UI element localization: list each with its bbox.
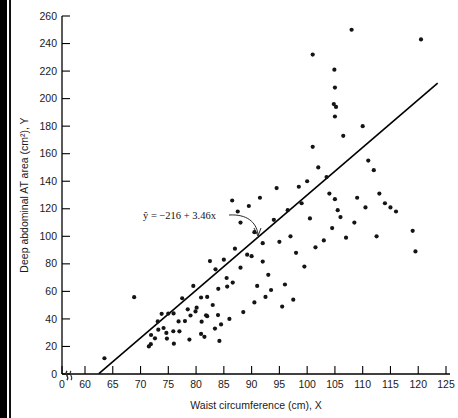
- data-point: [238, 220, 242, 224]
- data-point: [361, 124, 365, 128]
- data-point: [156, 328, 160, 332]
- data-point: [165, 336, 169, 340]
- data-point: [374, 234, 378, 238]
- data-point: [252, 300, 256, 304]
- data-point: [195, 306, 199, 310]
- data-point: [186, 307, 190, 311]
- x-tick-label: 105: [326, 378, 344, 390]
- x-tick-label: 100: [298, 378, 316, 390]
- data-point: [172, 342, 176, 346]
- data-point: [202, 335, 206, 339]
- data-point: [332, 68, 336, 72]
- x-axis-title: Waist circumference (cm), X: [190, 399, 321, 411]
- x-tick-label: 120: [409, 378, 427, 390]
- data-point: [419, 37, 423, 41]
- y-tick-label: 0: [51, 368, 57, 380]
- data-point: [177, 329, 181, 333]
- data-point: [102, 356, 106, 360]
- y-tick-label: 140: [39, 175, 57, 187]
- data-point: [291, 298, 295, 302]
- y-axis-title: Deep abdominal AT area (cm²), Y: [18, 117, 30, 272]
- data-point: [199, 332, 203, 336]
- data-point: [280, 304, 284, 308]
- x-tick-label: 65: [107, 378, 119, 390]
- data-point: [327, 192, 331, 196]
- x-tick-label: 85: [218, 378, 230, 390]
- data-point: [341, 134, 345, 138]
- data-point: [300, 201, 304, 205]
- data-point: [205, 295, 209, 299]
- data-point: [250, 254, 254, 258]
- data-point: [355, 196, 359, 200]
- x-tick-label: 90: [246, 378, 258, 390]
- y-tick-label: 100: [39, 230, 57, 242]
- data-point: [231, 280, 235, 284]
- data-point: [213, 267, 217, 271]
- data-point: [261, 241, 265, 245]
- data-point: [311, 52, 315, 56]
- x-tick-label: 70: [135, 378, 147, 390]
- data-point: [149, 333, 153, 337]
- data-point: [338, 215, 342, 219]
- data-point: [377, 192, 381, 196]
- figure-page: 020406080100120140160180200220240260 060…: [0, 0, 458, 418]
- data-point: [286, 208, 290, 212]
- data-point: [225, 284, 229, 288]
- data-point: [363, 205, 367, 209]
- regression-equation-label: ŷ = −216 + 3.46x: [143, 210, 217, 221]
- data-point: [236, 209, 240, 213]
- x-tick-label: 0: [59, 378, 65, 390]
- data-point: [183, 319, 187, 323]
- data-point: [132, 295, 136, 299]
- y-tick-label: 80: [45, 257, 57, 269]
- data-point: [383, 201, 387, 205]
- data-point: [193, 309, 197, 313]
- y-tick-label: 200: [39, 92, 57, 104]
- y-tick-label: 20: [45, 340, 57, 352]
- data-point: [160, 312, 164, 316]
- y-tick-label: 160: [39, 147, 57, 159]
- scatter-plot-figure: 020406080100120140160180200220240260 060…: [0, 0, 458, 418]
- data-point: [171, 329, 175, 333]
- x-tick-label: 95: [274, 378, 286, 390]
- data-point: [330, 226, 334, 230]
- data-point: [394, 209, 398, 213]
- data-point: [272, 218, 276, 222]
- data-point: [305, 179, 309, 183]
- data-point: [277, 240, 281, 244]
- x-tick-label: 75: [162, 378, 174, 390]
- data-point: [191, 284, 195, 288]
- data-point: [217, 339, 221, 343]
- data-point: [171, 311, 175, 315]
- data-point: [147, 344, 151, 348]
- x-tick-label: 80: [190, 378, 202, 390]
- data-point: [294, 251, 298, 255]
- data-point: [302, 265, 306, 269]
- data-point: [349, 28, 353, 32]
- data-point: [261, 260, 265, 264]
- data-point: [372, 168, 376, 172]
- data-point: [288, 234, 292, 238]
- data-point: [316, 165, 320, 169]
- x-tick-label: 115: [382, 378, 399, 390]
- y-tick-label: 60: [45, 285, 57, 297]
- data-point: [266, 273, 270, 277]
- axes-group: [62, 16, 450, 374]
- data-point: [199, 295, 203, 299]
- data-point: [188, 313, 192, 317]
- y-tick-label: 240: [39, 37, 57, 49]
- data-point: [275, 186, 279, 190]
- data-point: [297, 185, 301, 189]
- data-point: [366, 158, 370, 162]
- data-point: [156, 319, 160, 323]
- data-point: [200, 320, 204, 324]
- data-point: [241, 310, 245, 314]
- data-point: [413, 249, 417, 253]
- data-point: [176, 319, 180, 323]
- data-point: [161, 326, 165, 330]
- data-point: [255, 284, 259, 288]
- data-point: [263, 295, 267, 299]
- data-point: [344, 236, 348, 240]
- data-point: [258, 196, 262, 200]
- data-point: [205, 314, 209, 318]
